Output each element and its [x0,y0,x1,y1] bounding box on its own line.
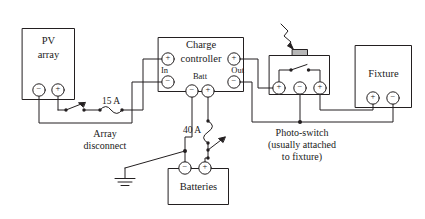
pv-array-terminal-positive-label: + [52,84,64,93]
photo-sensor-pad [293,50,308,56]
photo-switch-pivot-dot [289,68,292,71]
photo-switch-caption-line1: Photo-switch [252,128,352,139]
photo-switch-terminal-left-positive-label: + [273,82,285,91]
wire-fuse-to-controller-in-positive [122,59,162,110]
pv-array-label-line1: PV [22,35,75,46]
photo-switch-caption-line2: (usually attached [247,140,357,151]
wire-ground-tap [125,151,185,168]
photo-switch-terminal-right-positive-label: + [314,82,326,91]
array-disconnect-pivot-dot [64,108,67,111]
light-ray-arrow [281,24,291,46]
charge-controller-terminal-in-positive-label: + [162,53,174,62]
charge-controller-label-line1: Charge [160,39,242,50]
wire-out-positive-to-photo-switch-positive [240,59,273,88]
charge-controller-terminal-batt-negative-label: − [186,85,198,94]
photo-switch-caption-line3: to fixture) [252,152,352,163]
array-fuse-symbol [100,107,122,114]
batteries-terminal-negative-label: − [179,162,191,171]
charge-controller-terminal-in-negative-label: − [162,76,174,85]
pv-wiring-diagram: PV array − + Charge controller In Out Ba… [0,0,425,219]
charge-controller-group-in-label: In [161,66,177,75]
photo-switch-terminal-center-negative-label: − [294,82,306,91]
charge-controller-group-out-label: Out [222,66,244,75]
photo-switch-contact-dot [307,68,310,71]
pv-array-terminal-negative-label: − [33,84,45,93]
pv-array-label-line2: array [22,49,75,60]
array-disconnect-label-line2: disconnect [70,141,140,152]
fixture-terminal-positive-label: + [367,92,379,101]
fixture-label: Fixture [355,68,412,79]
charge-controller-terminal-out-negative-label: − [228,76,240,85]
charge-controller-group-batt-label: Batt [184,72,216,81]
array-disconnect-label-line1: Array [75,129,135,140]
battery-fuse-rating-label: 40 A [178,125,206,135]
light-ray-arrowhead [288,43,294,50]
array-fuse-rating-label: 15 A [96,96,126,106]
batteries-label: Batteries [168,181,229,192]
charge-controller-terminal-out-positive-label: + [228,53,240,62]
charge-controller-terminal-batt-positive-label: + [202,85,214,94]
fixture-terminal-negative-label: − [387,92,399,101]
batteries-terminal-positive-label: + [199,162,211,171]
